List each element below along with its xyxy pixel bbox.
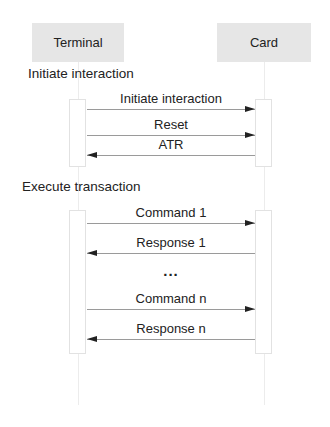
card-activation-2	[255, 210, 272, 354]
actor-card-label: Card	[250, 35, 278, 50]
message-line	[87, 109, 255, 110]
message-label: Response n	[87, 321, 255, 336]
message-line	[87, 309, 255, 310]
terminal-activation-2	[69, 210, 86, 354]
message-label: Initiate interaction	[87, 91, 255, 106]
arrow-left-icon	[87, 336, 97, 342]
actor-terminal: Terminal	[32, 23, 124, 62]
arrow-right-icon	[245, 306, 255, 312]
ellipsis: ...	[87, 262, 255, 279]
section-label-execute: Execute transaction	[22, 179, 141, 194]
section-label-initiate: Initiate interaction	[28, 66, 134, 81]
message-label: Reset	[87, 117, 255, 132]
actor-card: Card	[217, 23, 311, 62]
message-line	[87, 223, 255, 224]
arrow-left-icon	[87, 152, 97, 158]
message-label: ATR	[87, 137, 255, 152]
card-activation-1	[255, 99, 272, 167]
message-line	[87, 155, 255, 156]
message-line	[87, 253, 255, 254]
arrow-left-icon	[87, 250, 97, 256]
message-label: Command n	[87, 291, 255, 306]
message-line	[87, 135, 255, 136]
message-label: Response 1	[87, 235, 255, 250]
message-line	[87, 339, 255, 340]
terminal-activation-1	[69, 99, 86, 167]
actor-terminal-label: Terminal	[53, 35, 102, 50]
arrow-right-icon	[245, 220, 255, 226]
message-label: Command 1	[87, 205, 255, 220]
arrow-right-icon	[245, 106, 255, 112]
